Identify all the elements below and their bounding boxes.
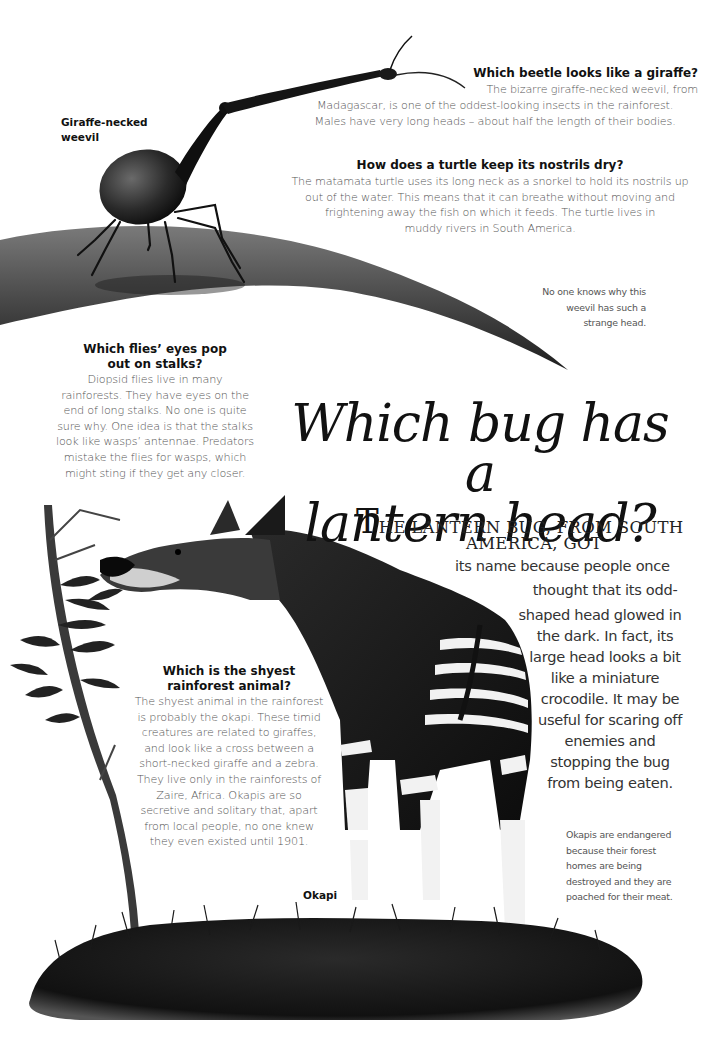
flies-answer-line-2: rainforests. They have eyes on the <box>30 388 280 404</box>
shyest-question-title-line-2: rainforest animal? <box>118 679 340 694</box>
grass-illustration <box>29 902 642 1020</box>
okapi-label: Okapi <box>303 888 337 903</box>
shyest-answer-line-4: and look like a cross between a <box>118 741 340 757</box>
shyest-answer-line-8: secretive and solitary that, apart <box>118 803 340 819</box>
shyest-answer-line-2: is probably the okapi. These timid <box>118 710 340 726</box>
shyest-answer-line-6: They live only in the rainforests of <box>118 772 340 788</box>
okapi-note-line-4: destroyed and they are <box>566 874 716 890</box>
shyest-answer-line-10: they even existed until 1901. <box>118 834 340 850</box>
section-turtle: How does a turtle keep its nostrils dry?… <box>270 158 710 236</box>
shyest-answer-line-9: from local people, no one knew <box>118 819 340 835</box>
okapi-note-line-3: homes are being <box>566 858 716 874</box>
beetle-answer-line-2: Madagascar, is one of the oddest-looking… <box>280 98 710 114</box>
lead-body-line-11: from being eaten. <box>530 771 690 795</box>
lead-caps-line-2: AMERICA, GOT <box>356 534 712 554</box>
turtle-answer-line-2: out of the water. This means that it can… <box>270 190 710 206</box>
section-flies: Which flies’ eyes pop out on stalks? Dio… <box>30 342 280 481</box>
lead-body-line-1: its name because people once <box>455 554 715 578</box>
turtle-answer-line-4: muddy rivers in South America. <box>270 221 710 237</box>
flies-answer-line-4: sure why. One idea is that the stalks <box>30 419 280 435</box>
beetle-answer-line-1: The bizarre giraffe-necked weevil, from <box>380 82 698 98</box>
beetle-question-title: Which beetle looks like a giraffe? <box>280 66 698 81</box>
weevil-note-caption: No one knows why this weevil has such a … <box>500 284 646 331</box>
shyest-answer-line-7: Zaire, Africa. Okapis are so <box>118 788 340 804</box>
weevil-note-line-3: strange head. <box>500 315 646 331</box>
okapi-note-caption: Okapis are endangered because their fore… <box>566 827 716 905</box>
flies-answer-line-1: Diopsid flies live in many <box>30 372 280 388</box>
weevil-note-line-1: No one knows why this <box>500 284 646 300</box>
flies-answer-line-7: might sting if they get any closer. <box>30 466 280 482</box>
shyest-question-title-line-1: Which is the shyest <box>118 664 340 679</box>
okapi-note-line-2: because their forest <box>566 843 716 859</box>
shyest-answer-line-5: short-necked giraffe and a zebra. <box>118 756 340 772</box>
shyest-answer-line-3: creatures are related to giraffes, <box>118 725 340 741</box>
turtle-answer-line-3: frightening away the fish on which it fe… <box>270 205 710 221</box>
flies-question-title-line-1: Which flies’ eyes pop <box>30 342 280 357</box>
turtle-question-title: How does a turtle keep its nostrils dry? <box>270 158 710 173</box>
section-shyest: Which is the shyest rainforest animal? T… <box>118 664 340 850</box>
beetle-answer-line-3: Males have very long heads – about half … <box>280 114 710 130</box>
shyest-answer-line-1: The shyest animal in the rainforest <box>118 694 340 710</box>
turtle-answer-line-1: The matamata turtle uses its long neck a… <box>270 174 710 190</box>
weevil-label-line-1: Giraffe-necked <box>61 115 148 130</box>
weevil-note-line-2: weevil has such a <box>500 300 646 316</box>
okapi-note-line-5: poached for their meat. <box>566 889 716 905</box>
section-beetle: Which beetle looks like a giraffe? <box>280 66 698 81</box>
flies-answer-line-5: look like wasps’ antennae. Predators <box>30 434 280 450</box>
flies-question-title-line-2: out on stalks? <box>30 357 280 372</box>
flies-answer-line-6: mistake the flies for wasps, which <box>30 450 280 466</box>
okapi-note-line-1: Okapis are endangered <box>566 827 716 843</box>
flies-answer-line-3: end of long stalks. No one is quite <box>30 403 280 419</box>
lead-body-line-2: thought that its odd- <box>495 578 715 602</box>
weevil-label: Giraffe-necked weevil <box>61 115 148 145</box>
headline-line-1: Which bug has a <box>270 398 690 498</box>
weevil-label-line-2: weevil <box>61 130 148 145</box>
